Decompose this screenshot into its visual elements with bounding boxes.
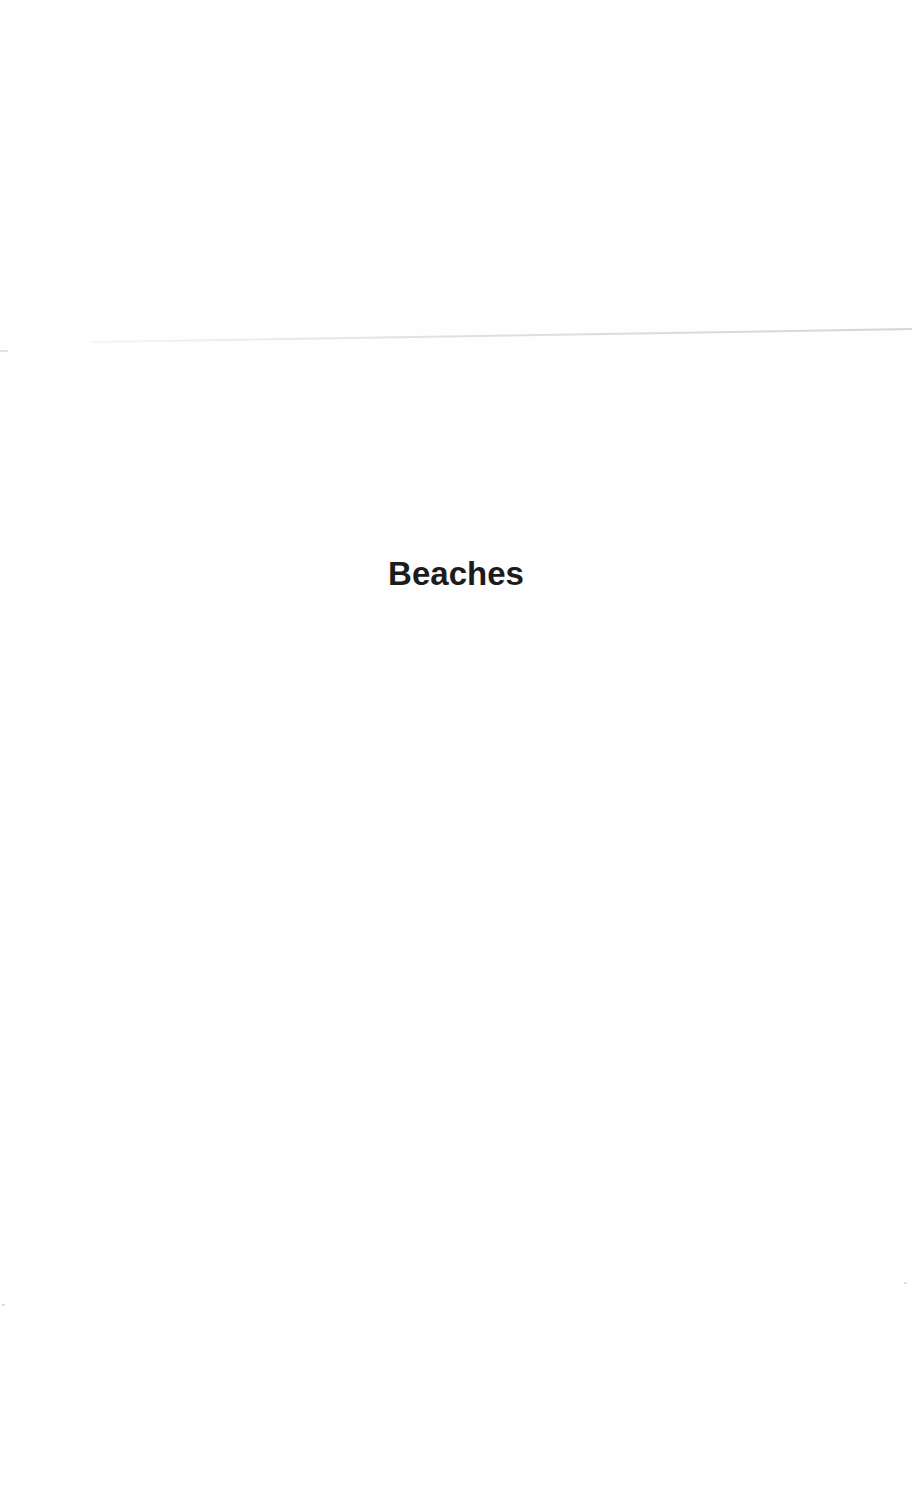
scan-fold-mark — [0, 350, 8, 352]
page-heading: Beaches — [0, 554, 910, 594]
scan-fold-line — [90, 328, 912, 343]
scan-speck — [2, 1304, 5, 1306]
scan-speck — [904, 1282, 907, 1284]
